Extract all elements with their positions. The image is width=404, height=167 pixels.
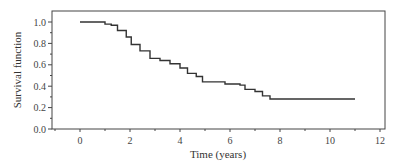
x-tick-label: 0 — [78, 135, 83, 146]
x-tick-label: 12 — [375, 135, 385, 146]
survival-curve — [80, 22, 355, 99]
y-tick-label: 0.4 — [34, 81, 47, 92]
x-axis-title: Time (years) — [190, 148, 246, 161]
y-tick-label: 0.6 — [34, 59, 47, 70]
x-tick-label: 2 — [128, 135, 133, 146]
x-tick-label: 4 — [178, 135, 183, 146]
y-tick-label: 0.0 — [34, 124, 47, 135]
x-tick-label: 8 — [278, 135, 283, 146]
y-axis-title: Survival function — [11, 31, 23, 108]
y-tick-label: 0.2 — [34, 102, 47, 113]
plot-frame — [52, 11, 385, 129]
y-tick-label: 0.8 — [34, 38, 47, 49]
x-tick-label: 6 — [228, 135, 233, 146]
x-tick-label: 10 — [325, 135, 335, 146]
y-tick-label: 1.0 — [34, 17, 47, 28]
survival-chart: 0.00.20.40.60.81.0 024681012 Time (years… — [0, 0, 404, 167]
y-axis: 0.00.20.40.60.81.0 — [34, 17, 53, 135]
x-axis: 024681012 — [55, 129, 385, 146]
